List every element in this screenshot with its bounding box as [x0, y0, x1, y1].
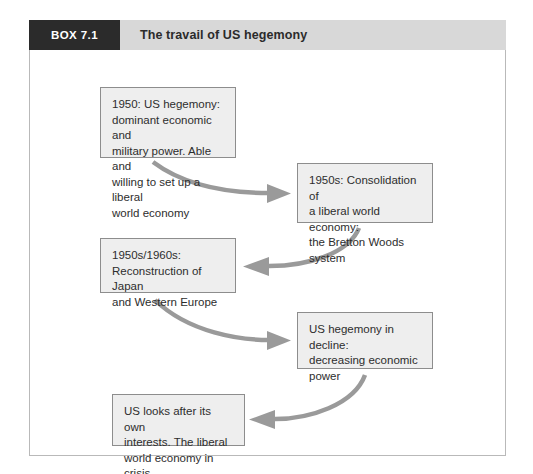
arrow-4: [249, 375, 365, 429]
flow-node-2: 1950s: Consolidation of a liberal world …: [297, 163, 433, 223]
box-title: The travail of US hegemony: [120, 20, 506, 50]
flow-node-5: US looks after its own interests. The li…: [112, 394, 245, 446]
flowchart-canvas: 1950: US hegemony: dominant economic and…: [29, 50, 506, 456]
flow-node-4: US hegemony in decline: decreasing econo…: [297, 312, 433, 369]
box-number-tag: BOX 7.1: [29, 20, 120, 50]
box-figure: BOX 7.1 The travail of US hegemony: [29, 20, 506, 456]
box-header: BOX 7.1 The travail of US hegemony: [29, 20, 506, 50]
flow-node-1: 1950: US hegemony: dominant economic and…: [100, 87, 236, 158]
flow-node-3: 1950s/1960s: Reconstruction of Japan and…: [100, 238, 236, 293]
